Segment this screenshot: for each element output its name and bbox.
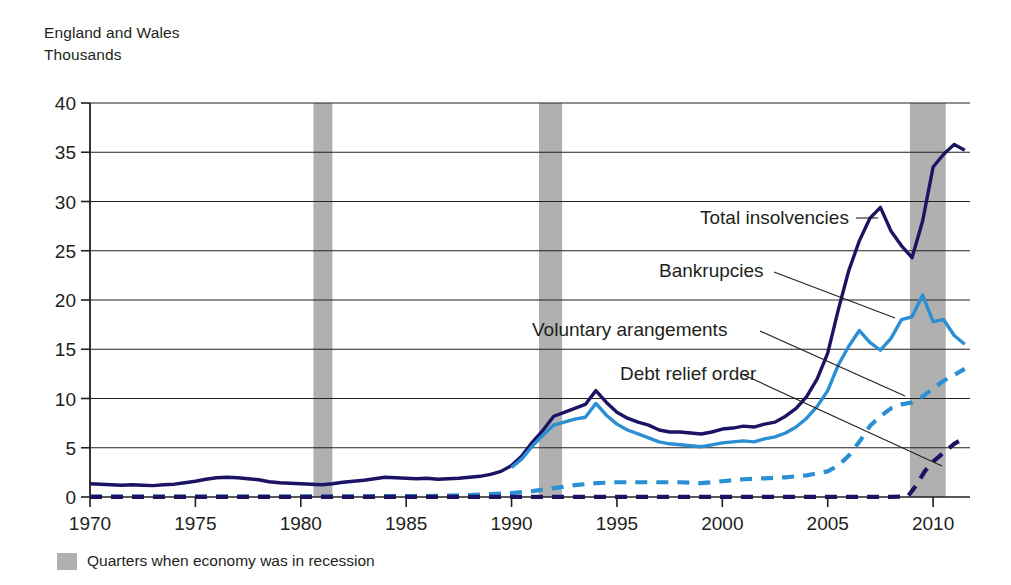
series-label-debt-relief-order: Debt relief order <box>620 363 757 384</box>
series-total-insolvencies <box>90 144 965 485</box>
series-label-total-insolvencies: Total insolvencies <box>700 207 849 228</box>
ytick-label-30: 30 <box>55 192 76 213</box>
recession-legend: Quarters when economy was in recession <box>57 552 375 570</box>
ytick-label-10: 10 <box>55 389 76 410</box>
xtick-label-1970: 1970 <box>69 513 111 534</box>
leader-line-bankrupcies <box>774 272 895 318</box>
xtick-label-1990: 1990 <box>490 513 532 534</box>
xtick-label-1975: 1975 <box>174 513 216 534</box>
xtick-label-1985: 1985 <box>385 513 427 534</box>
chart-canvas: 0510152025303540197019751980198519901995… <box>0 0 1011 545</box>
ytick-label-0: 0 <box>65 487 76 508</box>
ytick-label-40: 40 <box>55 93 76 114</box>
xtick-label-1980: 1980 <box>280 513 322 534</box>
xtick-label-2010: 2010 <box>912 513 954 534</box>
xtick-label-2005: 2005 <box>807 513 849 534</box>
series-label-voluntary-arangements: Voluntary arangements <box>532 319 727 340</box>
ytick-label-35: 35 <box>55 142 76 163</box>
recession-legend-label: Quarters when economy was in recession <box>87 552 375 570</box>
xtick-label-1995: 1995 <box>596 513 638 534</box>
recession-swatch-icon <box>57 553 77 570</box>
ytick-label-15: 15 <box>55 339 76 360</box>
xtick-label-2000: 2000 <box>701 513 743 534</box>
series-label-bankrupcies: Bankrupcies <box>659 260 764 281</box>
insolvency-chart: 0510152025303540197019751980198519901995… <box>0 0 1011 545</box>
leader-line-voluntary-arangements <box>760 331 905 396</box>
ytick-label-20: 20 <box>55 290 76 311</box>
ytick-label-5: 5 <box>65 438 76 459</box>
ytick-label-25: 25 <box>55 241 76 262</box>
